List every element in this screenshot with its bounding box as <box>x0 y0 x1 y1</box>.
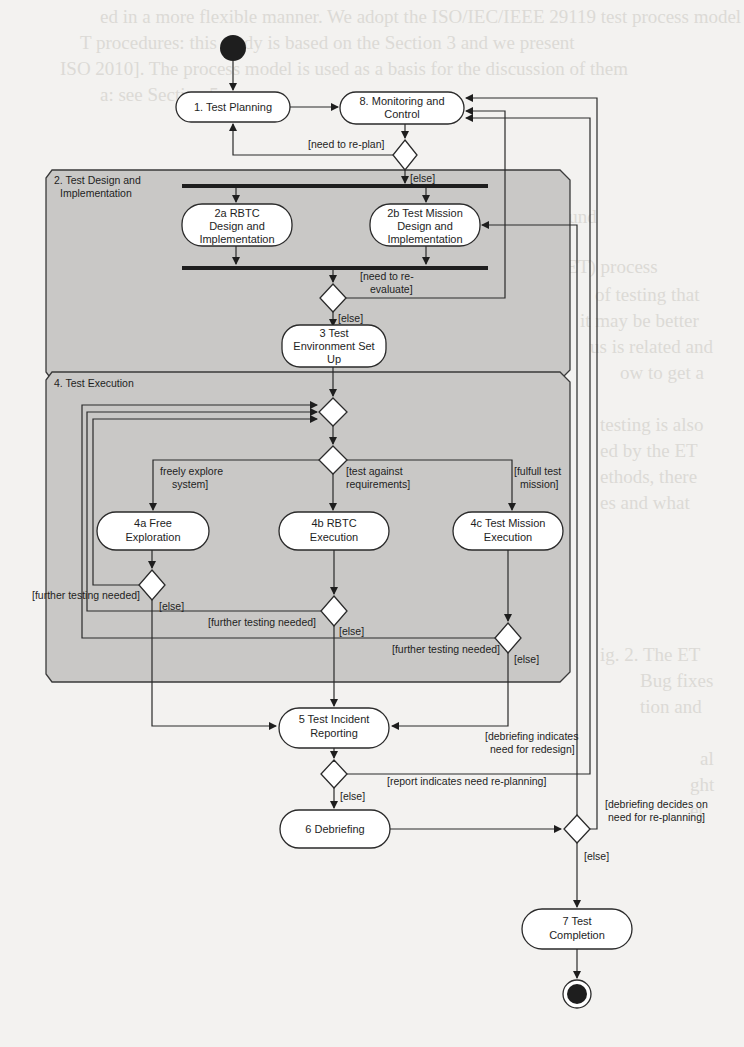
svg-text:4c Test Mission: 4c Test Mission <box>471 517 546 529</box>
guard-test-against-req-2: requirements] <box>346 478 410 490</box>
guard-further-testing-c: [further testing needed] <box>392 643 500 655</box>
activity-incident-reporting[interactable]: 5 Test Incident Reporting <box>279 708 389 748</box>
guard-further-testing-a: [further testing needed] <box>32 589 140 601</box>
region-test-execution-label: 4. Test Execution <box>54 377 134 389</box>
svg-text:Exploration: Exploration <box>125 531 180 543</box>
activity-debriefing[interactable]: 6 Debriefing <box>280 810 390 848</box>
svg-text:Environment Set: Environment Set <box>293 340 374 352</box>
svg-text:6 Debriefing: 6 Debriefing <box>305 823 364 835</box>
svg-text:Implementation: Implementation <box>387 233 462 245</box>
svg-text:2b Test Mission: 2b Test Mission <box>387 207 463 219</box>
activity-mission-design[interactable]: 2b Test Mission Design and Implementatio… <box>370 204 480 246</box>
svg-text:Design and: Design and <box>209 220 265 232</box>
activity-rbtc-design[interactable]: 2a RBTC Design and Implementation <box>182 204 292 246</box>
svg-text:4b RBTC: 4b RBTC <box>311 517 356 529</box>
svg-text:3 Test: 3 Test <box>319 327 348 339</box>
scanned-page: ed in a more flexible manner. We adopt t… <box>0 0 744 1047</box>
activity-rbtc-execution[interactable]: 4b RBTC Execution <box>279 512 389 550</box>
svg-text:1. Test Planning: 1. Test Planning <box>194 101 272 113</box>
svg-text:Control: Control <box>384 108 419 120</box>
fork-bar <box>182 184 488 188</box>
guard-else-c: [else] <box>514 653 539 665</box>
activity-env-setup[interactable]: 3 Test Environment Set Up <box>282 325 386 367</box>
decision-debrief <box>564 815 590 843</box>
guard-else-1: [else] <box>410 172 435 184</box>
guard-debrief-replanning-2: need for re-planning] <box>608 811 705 823</box>
svg-text:Execution: Execution <box>310 531 358 543</box>
guard-fulfill-mission-2: mission] <box>520 478 559 490</box>
guard-freely-explore-2: system] <box>172 478 208 490</box>
decision-report <box>321 760 347 788</box>
svg-text:5 Test Incident: 5 Test Incident <box>299 713 370 725</box>
guard-test-against-req-1: [test against <box>346 465 403 477</box>
activity-mission-execution[interactable]: 4c Test Mission Execution <box>453 512 563 550</box>
guard-further-testing-b: [further testing needed] <box>208 616 316 628</box>
svg-text:Design and: Design and <box>397 220 453 232</box>
svg-text:Implementation: Implementation <box>199 233 274 245</box>
svg-text:2a RBTC: 2a RBTC <box>214 207 259 219</box>
guard-freely-explore-1: freely explore <box>160 465 223 477</box>
join-bar <box>182 266 488 270</box>
guard-need-reevaluate-1: [need to re- <box>360 270 414 282</box>
activity-test-completion[interactable]: 7 Test Completion <box>522 909 632 949</box>
region-test-design-label-1: 2. Test Design and <box>54 174 141 186</box>
svg-text:8. Monitoring and: 8. Monitoring and <box>360 95 445 107</box>
guard-else-b: [else] <box>339 625 364 637</box>
svg-text:Up: Up <box>327 353 341 365</box>
svg-text:Completion: Completion <box>549 929 605 941</box>
svg-text:Reporting: Reporting <box>310 727 358 739</box>
guard-debrief-redesign-2: need for redesign] <box>490 743 575 755</box>
guard-debrief-replanning-1: [debriefing decides on <box>605 798 708 810</box>
guard-debrief-redesign-1: [debriefing indicates <box>485 730 578 742</box>
svg-text:Execution: Execution <box>484 531 532 543</box>
svg-text:7 Test: 7 Test <box>562 915 591 927</box>
guard-else-6: [else] <box>584 850 609 862</box>
activity-diagram: 2. Test Design and Implementation 4. Tes… <box>0 0 744 1047</box>
region-test-design-label-2: Implementation <box>60 187 132 199</box>
decision-replan <box>393 140 417 170</box>
activity-monitoring-control[interactable]: 8. Monitoring and Control <box>340 92 464 124</box>
activity-free-exploration[interactable]: 4a Free Exploration <box>97 512 209 550</box>
guard-else-a: [else] <box>159 600 184 612</box>
guard-else-2: [else] <box>338 312 363 324</box>
guard-need-reevaluate-2: evaluate] <box>370 283 413 295</box>
activity-test-planning[interactable]: 1. Test Planning <box>176 92 290 122</box>
initial-node <box>220 35 246 61</box>
guard-fulfill-mission-1: [fulfull test <box>514 465 561 477</box>
guard-report-replanning: [report indicates need re-planning] <box>387 775 546 787</box>
final-node <box>563 980 591 1008</box>
guard-need-replan: [need to re-plan] <box>308 138 385 150</box>
guard-else-5: [else] <box>340 790 365 802</box>
svg-text:4a Free: 4a Free <box>134 517 172 529</box>
